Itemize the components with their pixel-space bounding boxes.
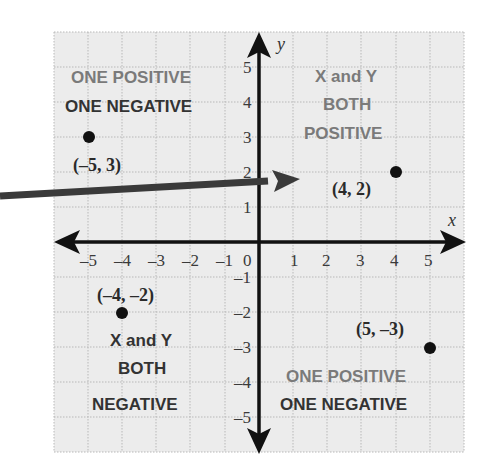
svg-text:4: 4 xyxy=(243,93,252,112)
svg-text:ONE POSITIVE: ONE POSITIVE xyxy=(71,68,191,87)
svg-text:ONE POSITIVE: ONE POSITIVE xyxy=(286,367,406,386)
svg-text:1: 1 xyxy=(243,198,252,217)
svg-text:3: 3 xyxy=(356,251,365,270)
y-axis-label: y xyxy=(275,34,285,54)
svg-text:–2: –2 xyxy=(181,251,199,270)
point-5-neg3 xyxy=(424,342,436,354)
point-4-2 xyxy=(390,166,402,178)
svg-text:–3: –3 xyxy=(147,251,165,270)
svg-text:BOTH: BOTH xyxy=(118,359,166,378)
point-neg5-3 xyxy=(83,131,95,143)
coordinate-plane-figure: y x –5 –4 –3 –2 –1 0 1 2 3 4 5 5 4 3 2 1… xyxy=(0,0,490,475)
point-label: (5, –3) xyxy=(356,319,404,340)
point-label: (–5, 3) xyxy=(73,155,121,176)
svg-text:–3: –3 xyxy=(233,338,251,357)
point-neg4-neg2 xyxy=(116,307,128,319)
svg-text:–1: –1 xyxy=(215,251,233,270)
svg-text:ONE NEGATIVE: ONE NEGATIVE xyxy=(65,97,192,116)
point-label: (4, 2) xyxy=(332,179,371,200)
svg-text:5: 5 xyxy=(243,58,252,77)
svg-text:POSITIVE: POSITIVE xyxy=(304,124,382,143)
svg-text:–1: –1 xyxy=(233,268,251,287)
svg-text:X and Y: X and Y xyxy=(315,67,378,86)
svg-text:BOTH: BOTH xyxy=(323,95,371,114)
svg-text:–4: –4 xyxy=(113,251,132,270)
svg-text:–5: –5 xyxy=(233,408,251,427)
svg-text:NEGATIVE: NEGATIVE xyxy=(92,395,178,414)
svg-text:X and Y: X and Y xyxy=(110,331,173,350)
x-axis-label: x xyxy=(447,210,456,230)
svg-text:–2: –2 xyxy=(233,303,251,322)
svg-text:–5: –5 xyxy=(79,251,97,270)
svg-text:5: 5 xyxy=(424,251,433,270)
svg-text:ONE NEGATIVE: ONE NEGATIVE xyxy=(280,395,407,414)
svg-text:–4: –4 xyxy=(233,373,252,392)
svg-text:2: 2 xyxy=(322,251,331,270)
svg-text:4: 4 xyxy=(390,251,399,270)
svg-text:1: 1 xyxy=(290,251,299,270)
svg-text:3: 3 xyxy=(243,128,252,147)
point-label: (–4, –2) xyxy=(97,285,154,306)
